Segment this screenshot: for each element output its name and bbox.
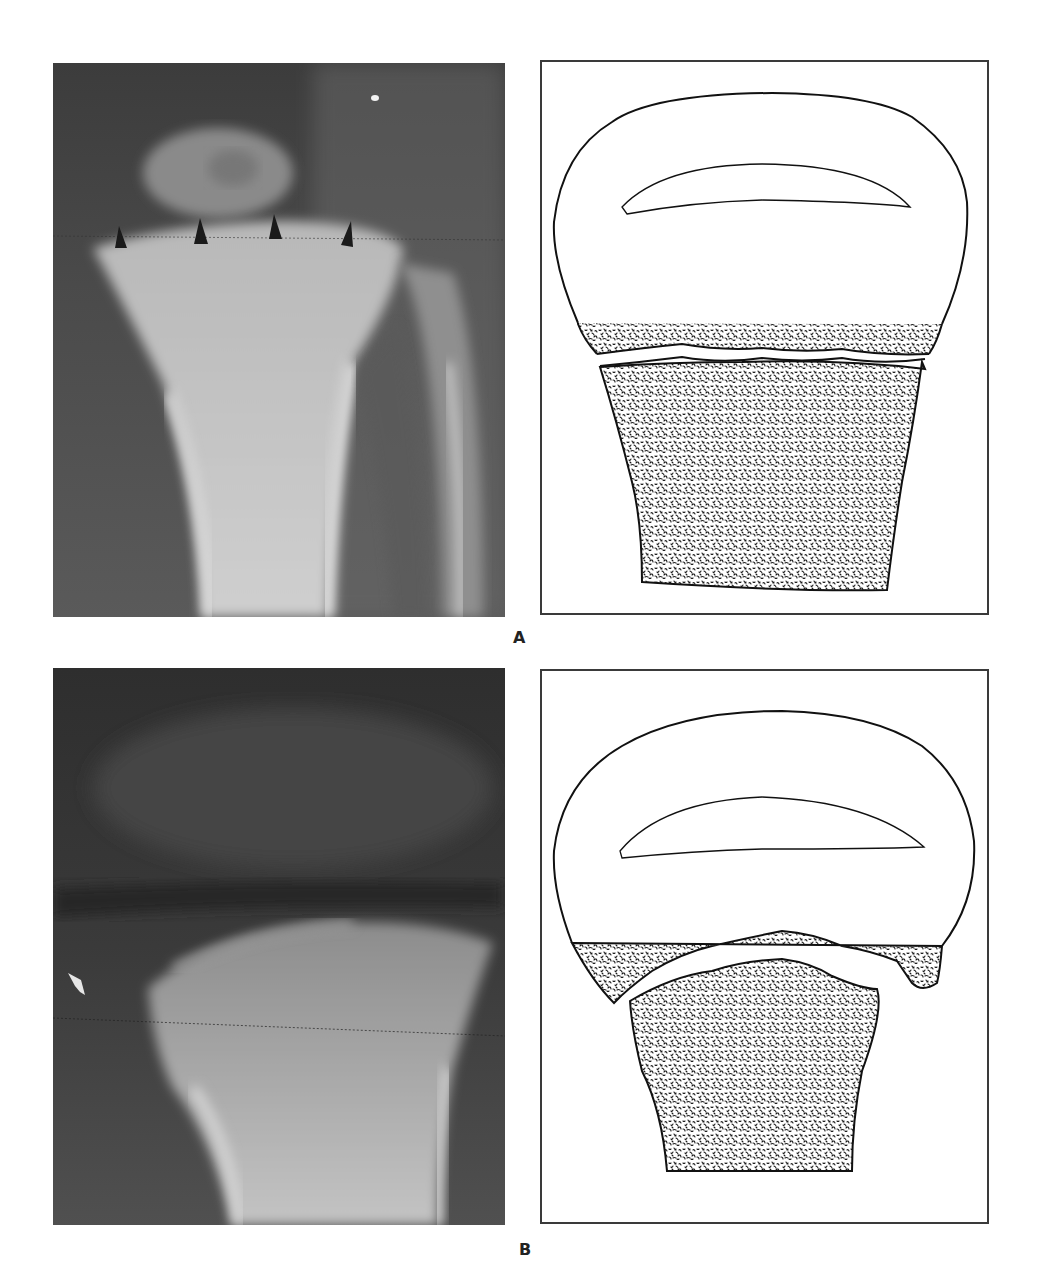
radiograph-b-image <box>53 668 505 1225</box>
schematic-b <box>540 669 989 1224</box>
panel-label-b: B <box>519 1240 531 1259</box>
radiograph-a <box>53 63 505 617</box>
schematic-b-image <box>542 671 987 1222</box>
panel-label-a: A <box>513 628 525 647</box>
radiograph-a-image <box>53 63 505 617</box>
radiograph-b <box>53 668 505 1225</box>
schematic-a-image <box>542 62 987 613</box>
schematic-a <box>540 60 989 615</box>
